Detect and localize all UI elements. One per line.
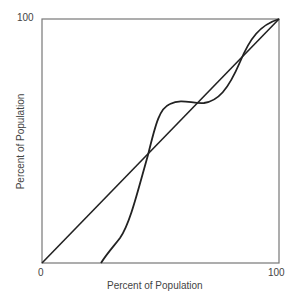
distribution-curve [101, 19, 279, 263]
lorenz-chart [0, 0, 301, 301]
y-tick-100: 100 [17, 12, 34, 23]
x-axis-title: Percent of Population [107, 280, 203, 291]
y-axis-title: Percent of Population [15, 92, 26, 192]
x-tick-0: 0 [38, 267, 44, 278]
x-tick-100: 100 [268, 267, 285, 278]
